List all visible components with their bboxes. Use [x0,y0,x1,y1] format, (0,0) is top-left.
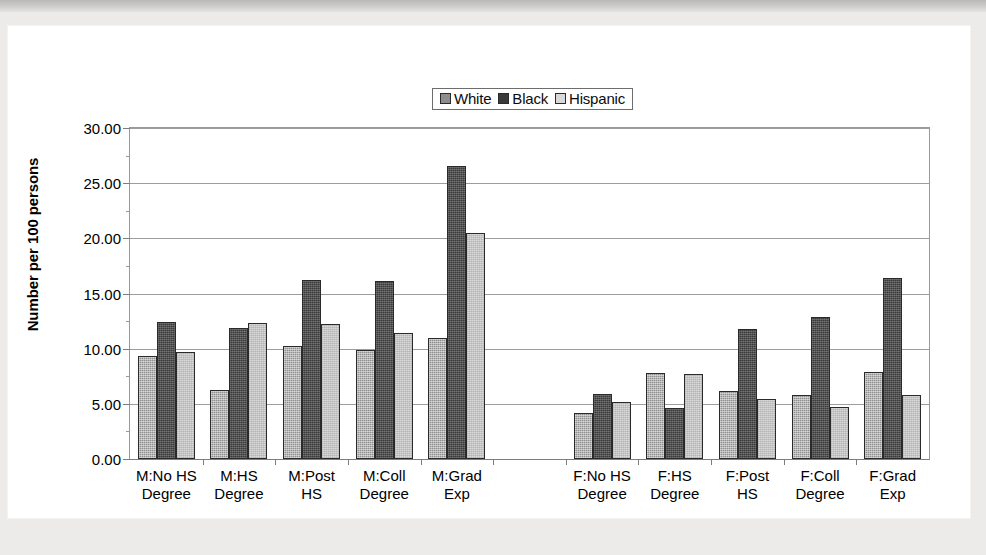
category-label-line1: F:No HS [573,467,631,484]
category-label-line2: Degree [214,485,263,502]
window-top-band [0,0,986,12]
bar-white[interactable] [356,350,375,459]
bar-white[interactable] [646,373,665,459]
bar-white[interactable] [792,395,811,459]
bar-group [203,128,276,459]
category-label-line1: M:HS [220,467,258,484]
bar-group [711,128,784,459]
bar-hispanic[interactable] [757,399,776,459]
category-separator [856,459,857,465]
bar-hispanic[interactable] [612,402,631,459]
bar-black[interactable] [302,280,321,459]
bar-hispanic[interactable] [684,374,703,459]
y-tick-label: 15.00 [83,285,121,302]
y-tick-label: 20.00 [83,230,121,247]
bar-black[interactable] [593,394,612,459]
category-label-line1: M:Grad [432,467,482,484]
bar-black[interactable] [883,278,902,459]
category-label: F:HSDegree [650,467,699,503]
category-label-line2: Exp [444,485,470,502]
bar-white[interactable] [283,346,302,459]
y-tick-mark [123,404,130,405]
category-separator [711,459,712,465]
bar-white[interactable] [574,413,593,459]
category-label: F:No HSDegree [573,467,631,503]
bar-hispanic[interactable] [321,324,340,459]
y-tick-label: 0.00 [92,451,121,468]
y-tick-mark [123,349,130,350]
y-axis-title: Number per 100 persons [24,95,41,395]
bar-black[interactable] [375,281,394,459]
bar-hispanic[interactable] [394,333,413,459]
category-label: M:HSDegree [214,467,263,503]
bar-white[interactable] [719,391,738,459]
category-label: M:GradExp [432,467,482,503]
category-separator [638,459,639,465]
bar-group [348,128,421,459]
y-tick-mark [123,459,130,460]
category-label: M:CollDegree [360,467,409,503]
category-label: F:PostHS [726,467,769,503]
category-label-line1: F:Coll [800,467,839,484]
category-separator [566,459,567,465]
y-tick-label: 5.00 [92,395,121,412]
bar-white[interactable] [864,372,883,459]
category-label-line1: F:Post [726,467,769,484]
category-label-line1: M:No HS [136,467,197,484]
category-label: F:CollDegree [795,467,844,503]
bar-black[interactable] [738,329,757,459]
bar-black[interactable] [157,322,176,459]
category-label-line2: Degree [142,485,191,502]
category-label: F:GradExp [869,467,916,503]
bar-hispanic[interactable] [902,395,921,459]
bar-group [638,128,711,459]
plot-area: 0.005.0010.0015.0020.0025.0030.00 M:No H… [129,127,930,460]
chart-card: WhiteBlackHispanic Number per 100 person… [8,26,970,518]
category-separator [203,459,204,465]
category-label-line2: Degree [795,485,844,502]
category-label: M:No HSDegree [136,467,197,503]
bar-group [421,128,494,459]
bar-black[interactable] [665,408,684,459]
bar-group [493,128,566,459]
category-label-line2: HS [301,485,322,502]
y-tick-mark [123,183,130,184]
bar-group [856,128,929,459]
category-label-line1: M:Post [288,467,335,484]
bar-hispanic[interactable] [830,407,849,459]
bar-black[interactable] [811,317,830,459]
category-label-line1: M:Coll [363,467,406,484]
category-separator [348,459,349,465]
category-separator [421,459,422,465]
bar-black[interactable] [229,328,248,459]
y-tick-label: 30.00 [83,120,121,137]
category-label-line2: HS [737,485,758,502]
bar-group [566,128,639,459]
bar-hispanic[interactable] [466,233,485,459]
bar-white[interactable] [428,338,447,459]
bar-black[interactable] [447,166,466,459]
category-separator [784,459,785,465]
category-label-line2: Exp [880,485,906,502]
category-label-line1: F:HS [658,467,692,484]
category-label-line1: F:Grad [869,467,916,484]
category-label-line2: Degree [578,485,627,502]
bars-layer [130,128,929,459]
plot-wrapper: Number per 100 persons 0.005.0010.0015.0… [8,26,970,518]
category-label-line2: Degree [650,485,699,502]
bar-white[interactable] [210,390,229,460]
bar-group [275,128,348,459]
bar-group [784,128,857,459]
y-tick-mark [123,294,130,295]
y-tick-label: 25.00 [83,175,121,192]
bar-group [130,128,203,459]
category-separator [493,459,494,465]
bar-hispanic[interactable] [248,323,267,459]
bar-white[interactable] [138,356,157,459]
category-separator [275,459,276,465]
y-tick-mark [123,128,130,129]
category-label-line2: Degree [360,485,409,502]
y-tick-label: 10.00 [83,340,121,357]
bar-hispanic[interactable] [176,352,195,459]
y-tick-mark [123,238,130,239]
